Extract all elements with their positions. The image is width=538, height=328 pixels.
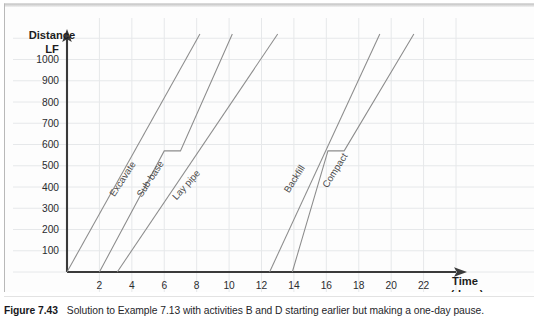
x-tick-label: 2 [97, 280, 103, 291]
x-tick-label: 4 [129, 280, 135, 291]
x-tick-labels: 246810121416182022 [97, 280, 430, 291]
x-axis-title: Time [452, 275, 478, 287]
series-line-lay-pipe [117, 34, 277, 272]
y-tick-label: 300 [42, 203, 59, 214]
y-tick-label: 800 [42, 97, 59, 108]
x-tick-label: 10 [223, 280, 235, 291]
figure-caption: Figure 7.43Solution to Example 7.13 with… [4, 305, 534, 316]
figure-number: Figure 7.43 [4, 305, 58, 316]
series-line-compact [292, 34, 414, 272]
series-line-excavate [67, 34, 200, 272]
y-tick-label: 600 [42, 139, 59, 150]
y-tick-label: 400 [42, 182, 59, 193]
caption-divider [4, 296, 534, 297]
y-tick-label: 500 [42, 160, 59, 171]
y-tick-label: 200 [42, 224, 59, 235]
y-tick-label: 900 [42, 75, 59, 86]
series-line-sub-base [99, 34, 232, 272]
chart-axes [62, 29, 467, 277]
x-tick-label: 14 [288, 280, 300, 291]
y-tick-labels: 1002003004005006007008009001000 [36, 54, 59, 256]
series-label-lay-pipe: Lay pipe [170, 167, 202, 201]
series-label-compact: Compact [320, 151, 350, 190]
y-tick-label: 1000 [36, 54, 59, 65]
figure-page: ExcavateSub-baseLay pipeBackfillCompact … [0, 0, 538, 328]
series-lines [67, 34, 414, 272]
time-distance-chart: ExcavateSub-baseLay pipeBackfillCompact … [5, 4, 534, 292]
series-label-sub-base: Sub-base [134, 158, 166, 198]
x-tick-label: 18 [353, 280, 365, 291]
y-axis-unit: LF [45, 43, 59, 55]
x-tick-label: 20 [385, 280, 397, 291]
x-tick-label: 22 [418, 280, 430, 291]
x-tick-label: 12 [256, 280, 268, 291]
figure-panel: ExcavateSub-baseLay pipeBackfillCompact … [4, 3, 534, 292]
series-line-backfill [270, 34, 380, 272]
series-inline-labels: ExcavateSub-baseLay pipeBackfillCompact [107, 151, 350, 202]
y-axis-title: Distance [29, 29, 76, 41]
series-label-excavate: Excavate [107, 159, 138, 198]
y-tick-label: 100 [42, 245, 59, 256]
figure-caption-text: Solution to Example 7.13 with activities… [67, 305, 484, 316]
x-tick-label: 16 [321, 280, 333, 291]
x-tick-label: 6 [161, 280, 167, 291]
y-tick-label: 700 [42, 118, 59, 129]
x-tick-label: 8 [194, 280, 200, 291]
x-axis-unit: (days) [451, 288, 484, 292]
